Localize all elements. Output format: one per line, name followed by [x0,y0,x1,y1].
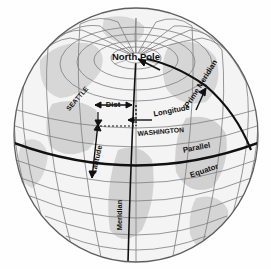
globe-figure: North Pole Prime Meridian Longitude Lati… [0,0,271,269]
label-meridian: Meridian [115,199,124,230]
globe-diagram: North Pole Prime Meridian Longitude Lati… [0,0,271,269]
label-distance: Dist [106,100,121,109]
label-north-pole: North Pole [112,51,160,62]
